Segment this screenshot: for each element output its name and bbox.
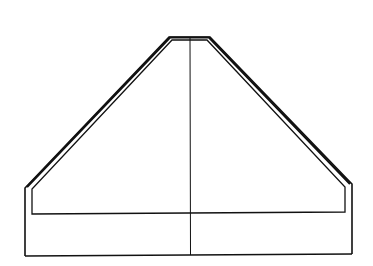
cross-section-diagram	[0, 0, 373, 266]
outer-outline	[25, 37, 352, 256]
centerline	[190, 38, 191, 255]
top-edge	[27, 38, 350, 188]
outer-bottom-edge	[25, 254, 352, 256]
